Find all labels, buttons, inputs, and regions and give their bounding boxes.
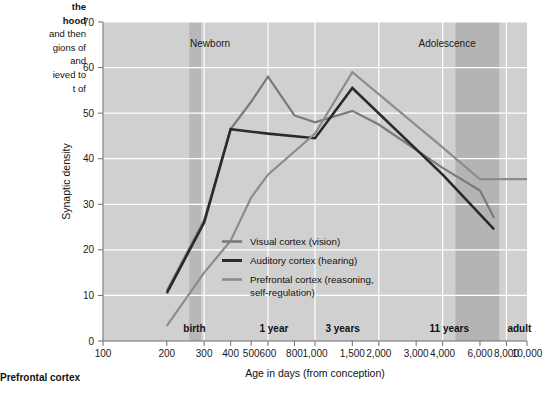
legend-label: Auditory cortex (hearing)	[250, 255, 357, 266]
y-tick-label: 20	[83, 244, 95, 255]
adolescence-band	[456, 22, 500, 341]
y-tick-label: 0	[88, 336, 94, 347]
x-tick-label: 600	[260, 348, 277, 359]
y-tick-label: 60	[83, 62, 95, 73]
x-tick-label: 200	[158, 348, 175, 359]
y-tick-label: 10	[83, 290, 95, 301]
y-tick-label: 30	[83, 199, 95, 210]
chart-svg: 010203040506070 1002003004005006008001,0…	[0, 0, 545, 394]
x-tick-label: 500	[243, 348, 260, 359]
x-tick-label: 6,000	[467, 348, 492, 359]
synaptic-density-chart: 010203040506070 1002003004005006008001,0…	[0, 0, 545, 394]
x-tick-label: 3,000	[404, 348, 429, 359]
x-tick-label: 100	[95, 348, 112, 359]
milestone-adult: adult	[507, 323, 532, 334]
y-tick-label: 70	[83, 17, 95, 28]
x-axis-title: Age in days (from conception)	[245, 367, 384, 379]
milestone-three-years: 3 years	[325, 323, 360, 334]
y-axis-ticks: 010203040506070	[83, 17, 103, 347]
legend-label-cont: self-regulation)	[250, 287, 315, 298]
annotation-adolescence: Adolescence	[418, 38, 476, 49]
x-tick-label: 1,500	[340, 348, 365, 359]
legend-label: Prefrontal cortex (reasoning,	[250, 274, 374, 285]
annotation-newborn: Newborn	[190, 38, 230, 49]
milestone-eleven-years: 11 years	[430, 323, 470, 334]
x-tick-label: 2,000	[366, 348, 391, 359]
x-axis-ticks: 1002003004005006008001,0001,5002,0003,00…	[95, 341, 543, 359]
y-axis-title: Synaptic density	[60, 143, 72, 220]
y-tick-label: 40	[83, 153, 95, 164]
x-tick-label: 10,000	[512, 348, 543, 359]
x-tick-label: 1,000	[302, 348, 327, 359]
x-tick-label: 400	[222, 348, 239, 359]
milestone-one-year: 1 year	[259, 323, 288, 334]
x-tick-label: 300	[196, 348, 213, 359]
y-tick-label: 50	[83, 108, 95, 119]
legend-label: Visual cortex (vision)	[250, 236, 340, 247]
x-tick-label: 800	[286, 348, 303, 359]
x-tick-label: 4,000	[430, 348, 455, 359]
milestone-birth: birth	[183, 323, 205, 334]
